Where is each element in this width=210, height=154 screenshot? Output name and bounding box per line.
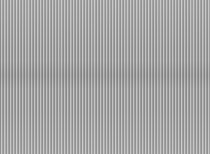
light-band-bottom <box>0 110 210 154</box>
stripe-overlay <box>0 0 210 154</box>
stripe-pattern-canvas <box>0 0 210 154</box>
dark-band-middle <box>0 60 210 90</box>
light-band-top <box>0 0 210 50</box>
